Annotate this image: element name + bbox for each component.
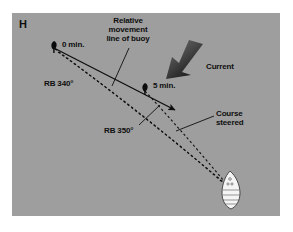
label-current: Current bbox=[206, 63, 234, 72]
vessel-ship-icon bbox=[222, 171, 240, 209]
label-buoy-5min: 5 min. bbox=[153, 82, 175, 91]
bearing-line-rb340 bbox=[55, 49, 228, 186]
label-bearing-rb350: RB 350° bbox=[104, 127, 133, 136]
label-bearing-rb340: RB 340° bbox=[44, 80, 73, 89]
label-buoy-0min: 0 min. bbox=[62, 41, 84, 50]
relative-movement-leader-line bbox=[112, 48, 129, 86]
label-course-steered: Course steered bbox=[216, 110, 268, 128]
panel-letter: H bbox=[19, 18, 27, 30]
navigation-diagram-figure: H Relative movement line of buoy 0 min. … bbox=[0, 0, 293, 232]
label-relative-movement-line: Relative movement line of buoy bbox=[96, 17, 160, 44]
buoy-marker-0min bbox=[51, 41, 56, 53]
rb350-leader-line bbox=[139, 105, 160, 125]
bearing-line-rb350 bbox=[145, 91, 229, 187]
current-arrow-icon bbox=[166, 40, 203, 79]
course-steered-leader-line bbox=[176, 116, 214, 131]
